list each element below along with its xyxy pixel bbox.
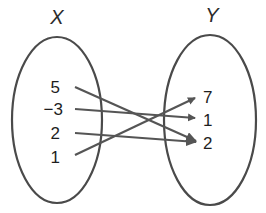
mapping-arrow-neg3-to-1 [75, 109, 195, 118]
mapping-arrow-2-to-2 [75, 133, 196, 142]
domain-set-label: X [49, 6, 64, 28]
domain-set-ellipse [12, 37, 102, 203]
domain-element: −3 [44, 100, 63, 119]
domain-element: 1 [51, 148, 60, 167]
mapping-diagram: X Y 5 −3 2 1 7 1 2 [0, 0, 266, 213]
domain-element: 2 [51, 124, 60, 143]
domain-element: 5 [51, 78, 60, 97]
range-set-label: Y [205, 4, 220, 26]
mapping-arrow-1-to-7 [75, 98, 195, 155]
range-element: 2 [203, 134, 212, 153]
range-element: 1 [203, 111, 212, 130]
range-element: 7 [203, 88, 212, 107]
